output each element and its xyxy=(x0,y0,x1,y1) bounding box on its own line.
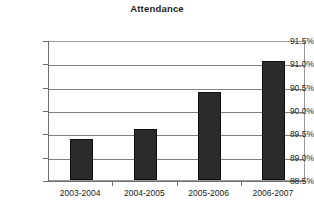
y-axis-tick-mark xyxy=(43,181,48,182)
plot-area xyxy=(48,41,305,181)
chart-title: Attendance xyxy=(0,3,314,14)
y-axis-tick-label: 91.5% xyxy=(270,36,314,46)
x-axis-tick-label: 2003-2004 xyxy=(60,188,101,198)
y-axis-tick-mark xyxy=(43,134,48,135)
y-axis-tick-mark xyxy=(43,64,48,65)
y-axis-tick-mark xyxy=(43,88,48,89)
x-axis-tick-mark xyxy=(177,182,178,186)
x-axis-tick-label: 2004-2005 xyxy=(124,188,165,198)
bar-2003-2004 xyxy=(70,139,93,180)
bar-2004-2005 xyxy=(134,129,157,180)
y-axis-tick-label: 88.5% xyxy=(270,176,314,186)
x-axis-tick-label: 2006-2007 xyxy=(253,188,294,198)
bar-2005-2006 xyxy=(198,92,221,180)
y-axis-tick-label: 90.0% xyxy=(270,106,314,116)
y-axis-tick-mark xyxy=(43,158,48,159)
chart-container: Attendance 88.5%89.0%89.5%90.0%90.5%91.0… xyxy=(0,0,314,218)
y-axis-tick-label: 89.5% xyxy=(270,129,314,139)
y-axis-line xyxy=(48,41,49,182)
y-axis-tick-label: 89.0% xyxy=(270,153,314,163)
y-axis-tick-mark xyxy=(43,111,48,112)
y-axis-tick-label: 90.5% xyxy=(270,83,314,93)
x-axis-tick-mark xyxy=(112,182,113,186)
y-axis-tick-mark xyxy=(43,41,48,42)
y-axis-tick-label: 91.0% xyxy=(270,59,314,69)
x-axis-tick-label: 2005-2006 xyxy=(188,188,229,198)
x-axis-tick-mark xyxy=(241,182,242,186)
